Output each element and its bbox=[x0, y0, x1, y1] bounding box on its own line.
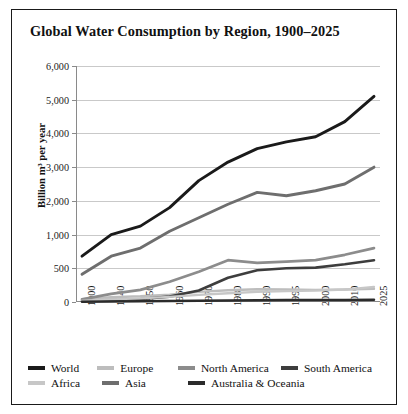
legend-item-europe[interactable]: Europe bbox=[97, 362, 178, 374]
y-axis-tick-label: 500 bbox=[17, 263, 76, 274]
y-axis-tick-label: 5,000 bbox=[17, 94, 76, 105]
series-lines bbox=[76, 66, 380, 302]
series-line bbox=[82, 260, 374, 301]
chart-legend: WorldEuropeNorth AmericaSouth AmericaAfr… bbox=[28, 362, 384, 392]
legend-item-australia-oceania[interactable]: Australia & Oceania bbox=[188, 377, 298, 389]
chart-card: Global Water Consumption by Region, 1900… bbox=[11, 9, 397, 405]
y-axis-tick-label: 4,000 bbox=[17, 128, 76, 139]
legend-swatch-icon bbox=[178, 366, 195, 371]
plot-area: 05001,0002,0003,0004,0005,0006,000 19001… bbox=[76, 66, 380, 302]
legend-item-south-america[interactable]: South America bbox=[281, 362, 384, 374]
series-line bbox=[82, 287, 374, 301]
legend-item-world[interactable]: World bbox=[28, 362, 97, 374]
legend-label: North America bbox=[201, 362, 269, 374]
legend-label: Europe bbox=[120, 362, 153, 374]
y-axis-tick-label: 2,000 bbox=[17, 195, 76, 206]
y-axis-tick-label: 3,000 bbox=[17, 162, 76, 173]
legend-swatch-icon bbox=[188, 381, 205, 386]
legend-label: Asia bbox=[125, 377, 146, 389]
series-line bbox=[82, 96, 374, 256]
legend-item-africa[interactable]: Africa bbox=[28, 377, 102, 389]
series-line bbox=[82, 248, 374, 299]
legend-item-north-america[interactable]: North America bbox=[178, 362, 281, 374]
legend-swatch-icon bbox=[97, 366, 114, 371]
legend-item-asia[interactable]: Asia bbox=[102, 377, 188, 389]
y-axis-tick-label: 1,000 bbox=[17, 229, 76, 240]
legend-row: WorldEuropeNorth AmericaSouth America bbox=[28, 362, 384, 374]
legend-swatch-icon bbox=[102, 381, 119, 386]
legend-label: South America bbox=[304, 362, 372, 374]
legend-swatch-icon bbox=[28, 381, 45, 386]
legend-label: World bbox=[51, 362, 79, 374]
legend-label: Australia & Oceania bbox=[211, 377, 305, 389]
y-axis-tick bbox=[72, 302, 76, 303]
legend-label: Africa bbox=[51, 377, 80, 389]
legend-row: AfricaAsiaAustralia & Oceania bbox=[28, 377, 384, 389]
legend-swatch-icon bbox=[281, 366, 298, 371]
y-axis-tick-label: 6,000 bbox=[17, 61, 76, 72]
legend-swatch-icon bbox=[28, 366, 45, 371]
y-axis-tick-label: 0 bbox=[17, 297, 76, 308]
chart-title: Global Water Consumption by Region, 1900… bbox=[30, 23, 340, 40]
